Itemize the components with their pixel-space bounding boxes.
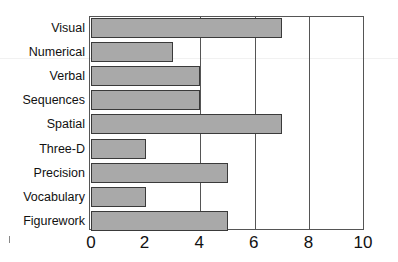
plot-area [89, 16, 364, 230]
bar-numerical [91, 42, 173, 62]
bar-figurework [91, 211, 228, 231]
category-label: Three-D [39, 139, 85, 159]
bar-visual [91, 18, 282, 38]
category-label: Visual [51, 18, 85, 38]
x-tick-label: 10 [354, 232, 373, 254]
category-label: Vocabulary [23, 187, 85, 207]
x-tick-label: 4 [194, 232, 203, 254]
x-tick-label: 0 [86, 232, 95, 254]
x-tick-label: 2 [140, 232, 149, 254]
bar-verbal [91, 66, 200, 86]
bar-vocabulary [91, 187, 146, 207]
x-tick-label: 6 [249, 232, 258, 254]
category-label: Precision [34, 163, 85, 183]
bar-spatial [91, 114, 282, 134]
bar-precision [91, 163, 228, 183]
bar-three-d [91, 139, 146, 159]
category-label: Verbal [50, 66, 85, 86]
category-label: Spatial [47, 114, 85, 134]
category-label: Figurework [23, 211, 85, 231]
category-label: Sequences [22, 90, 85, 110]
x-tick-label: 8 [304, 232, 313, 254]
bar-sequences [91, 90, 200, 110]
gridline [309, 17, 310, 229]
scan-artifact-mark [9, 236, 10, 243]
category-label: Numerical [29, 42, 85, 62]
